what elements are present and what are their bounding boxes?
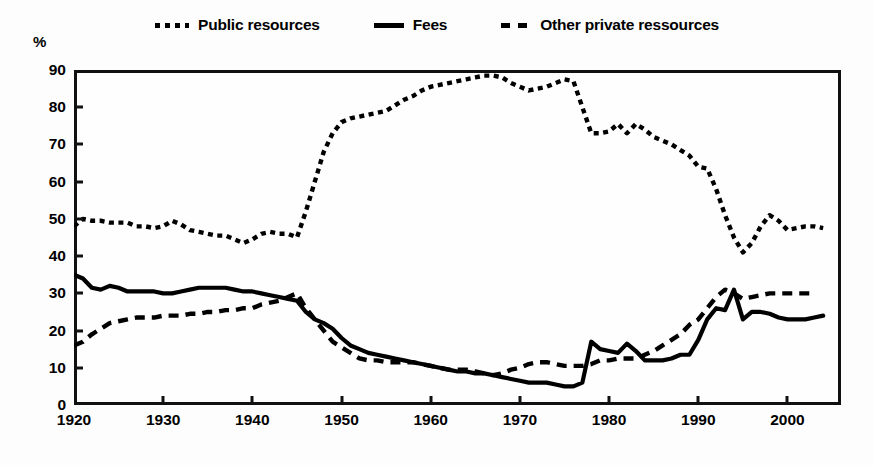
x-axis-tick-labels: 192019301940195019601970198019902000 — [74, 412, 841, 434]
legend-swatch-solid-icon — [374, 23, 404, 28]
x-tick-mark — [518, 396, 521, 405]
y-tick-label: 40 — [34, 248, 66, 264]
plot-area — [74, 70, 841, 405]
legend-label-other-private-resources: Other private ressources — [540, 17, 719, 33]
y-tick-label: 30 — [34, 286, 66, 302]
x-tick-mark — [786, 396, 789, 405]
x-tick-mark — [251, 396, 254, 405]
y-tick-label: 80 — [34, 99, 66, 115]
x-tick-label: 1990 — [681, 412, 715, 428]
x-tick-label: 1930 — [146, 412, 180, 428]
y-tick-label: 90 — [34, 62, 66, 78]
x-tick-label: 1960 — [413, 412, 447, 428]
y-tick-mark — [74, 180, 83, 183]
legend-item-public-resources: Public resources — [155, 17, 320, 33]
chart-legend: Public resources Fees Other private ress… — [0, 8, 874, 42]
x-tick-mark — [162, 396, 165, 405]
x-tick-label: 1970 — [503, 412, 537, 428]
x-tick-mark — [608, 396, 611, 405]
chart-figure: Public resources Fees Other private ress… — [0, 0, 874, 465]
legend-label-fees: Fees — [413, 17, 448, 33]
x-tick-label: 1940 — [235, 412, 269, 428]
x-tick-label: 1950 — [324, 412, 358, 428]
y-axis-tick-labels: 0102030405060708090 — [30, 70, 66, 405]
x-tick-label: 1980 — [592, 412, 626, 428]
y-tick-mark — [74, 292, 83, 295]
x-tick-label: 1920 — [57, 412, 91, 428]
legend-item-other-private-resources: Other private ressources — [501, 17, 719, 33]
y-tick-label: 10 — [34, 360, 66, 376]
y-tick-mark — [74, 106, 83, 109]
series-line-public-resources — [74, 76, 823, 253]
legend-label-public-resources: Public resources — [198, 17, 320, 33]
y-tick-mark — [74, 255, 83, 258]
y-tick-mark — [74, 329, 83, 332]
y-tick-mark — [74, 143, 83, 146]
x-tick-mark — [697, 396, 700, 405]
y-tick-label: 60 — [34, 174, 66, 190]
legend-item-fees: Fees — [374, 17, 448, 33]
legend-swatch-dashed-icon — [501, 23, 531, 28]
legend-swatch-dotted-icon — [155, 23, 189, 28]
y-tick-label: 50 — [34, 211, 66, 227]
y-axis-unit-label: % — [33, 34, 46, 49]
y-tick-mark — [74, 366, 83, 369]
y-tick-label: 70 — [34, 137, 66, 153]
x-tick-label: 2000 — [770, 412, 804, 428]
y-tick-label: 20 — [34, 323, 66, 339]
y-tick-mark — [74, 217, 83, 220]
series-container — [74, 70, 841, 405]
x-tick-mark — [429, 396, 432, 405]
x-tick-mark — [340, 396, 343, 405]
